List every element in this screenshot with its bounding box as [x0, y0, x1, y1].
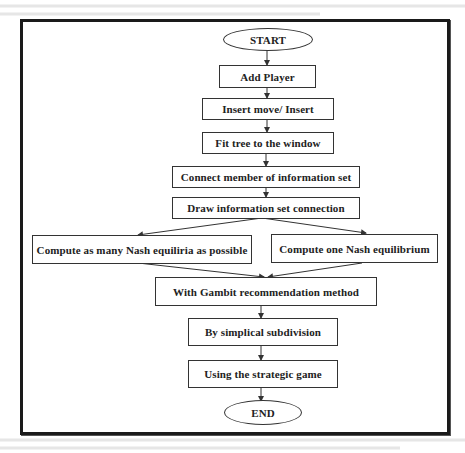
step-strategic-game: Using the strategic game [188, 360, 338, 388]
end-label: END [251, 407, 275, 419]
end-node: END [224, 400, 302, 425]
branch-compute-many-label: Compute as many Nash equiliria as possib… [37, 244, 248, 256]
step-draw-connection-label: Draw information set connection [187, 202, 344, 214]
step-insert-move: Insert move/ Insert [202, 98, 334, 120]
step-fit-tree: Fit tree to the window [202, 132, 334, 154]
step-fit-tree-label: Fit tree to the window [215, 137, 320, 149]
step-simplical-subdivision: By simplical subdivision [188, 318, 338, 346]
branch-compute-many: Compute as many Nash equiliria as possib… [32, 235, 252, 264]
step-draw-connection: Draw information set connection [172, 197, 360, 219]
step-gambit-method-label: With Gambit recommendation method [173, 286, 359, 298]
branch-compute-one: Compute one Nash equilibrium [271, 234, 438, 263]
step-strategic-game-label: Using the strategic game [204, 368, 322, 380]
step-connect-member-label: Connect member of information set [181, 171, 352, 183]
step-simplical-subdivision-label: By simplical subdivision [205, 326, 321, 338]
start-label: START [250, 34, 286, 46]
step-add-player: Add Player [219, 65, 316, 88]
step-connect-member: Connect member of information set [172, 166, 360, 188]
step-insert-move-label: Insert move/ Insert [222, 103, 314, 115]
branch-compute-one-label: Compute one Nash equilibrium [279, 243, 429, 255]
start-node: START [223, 28, 313, 51]
step-add-player-label: Add Player [240, 71, 294, 83]
step-gambit-method: With Gambit recommendation method [155, 277, 377, 306]
